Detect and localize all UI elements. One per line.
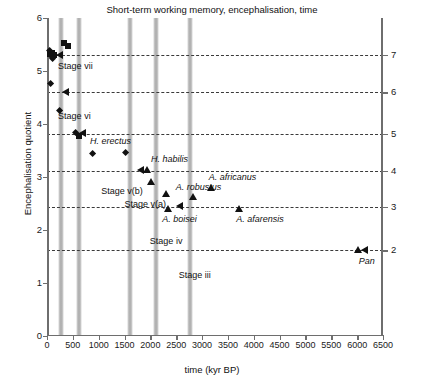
chart-figure: Short-term working memory, encephalisati… <box>0 0 424 383</box>
y-axis-left-tick <box>43 283 48 284</box>
chart-annotation: A. afarensis <box>236 215 284 224</box>
y-axis-right-tick-label: 2 <box>391 245 417 255</box>
x-axis-tick-label: 6500 <box>363 341 403 350</box>
data-point-triangle <box>143 166 151 173</box>
x-axis-tick <box>383 335 384 340</box>
x-axis-tick <box>99 335 100 340</box>
y-axis-left-tick-label: 0 <box>16 331 42 341</box>
data-point-triangle <box>162 190 170 197</box>
y-axis-left-tick <box>43 177 48 178</box>
y-axis-right-tick <box>383 207 388 208</box>
guide-arrow-left <box>176 202 183 210</box>
y-axis-left-tick <box>43 124 48 125</box>
x-axis-tick <box>331 335 332 340</box>
y-axis-left-tick <box>43 71 48 72</box>
data-point-triangle <box>235 205 243 212</box>
guide-arrow-left <box>62 88 69 96</box>
guide-line <box>47 250 383 251</box>
data-point-triangle <box>147 178 155 185</box>
chart-annotation: Pan <box>359 257 375 266</box>
x-axis-tick <box>125 335 126 340</box>
guide-arrow-left <box>137 166 144 174</box>
y-axis-left-tick <box>43 230 48 231</box>
y-axis-right-tick-label: 4 <box>391 166 417 176</box>
chart-annotation: Stage iv <box>150 237 183 246</box>
y-axis-left-tick-label: 1 <box>16 278 42 288</box>
x-axis-tick <box>73 335 74 340</box>
y-axis-right-tick <box>383 171 388 172</box>
y-axis-left-tick-label: 6 <box>16 13 42 23</box>
data-point-square <box>65 43 71 49</box>
stage-band <box>127 18 133 335</box>
chart-annotation: A. robustus <box>176 183 222 192</box>
y-axis-left-tick-label: 3 <box>16 172 42 182</box>
guide-line <box>47 207 383 208</box>
y-axis-left-line <box>47 18 49 336</box>
y-axis-right-tick-label: 6 <box>391 87 417 97</box>
y-axis-left-tick-label: 2 <box>16 225 42 235</box>
x-axis-tick <box>176 335 177 340</box>
chart-annotation: Stage vii <box>58 62 93 71</box>
guide-arrow-left <box>56 51 63 59</box>
x-axis-tick <box>280 335 281 340</box>
guide-line <box>47 92 383 93</box>
plot-area: 0123456 234567 0500100015002000250030003… <box>47 18 383 336</box>
x-axis-tick <box>305 335 306 340</box>
x-axis-title: time (kyr BP) <box>0 364 424 375</box>
y-axis-right-tick <box>383 250 388 251</box>
guide-line <box>47 134 383 135</box>
y-axis-right-line <box>381 18 383 336</box>
y-axis-left-tick-label: 4 <box>16 119 42 129</box>
chart-annotation: Stage v(a) <box>125 200 167 209</box>
x-axis-tick <box>357 335 358 340</box>
chart-annotation: H. erectus <box>90 137 131 146</box>
chart-annotation: H. habilis <box>151 155 188 164</box>
y-axis-right-tick <box>383 92 388 93</box>
y-axis-left-tick-label: 5 <box>16 66 42 76</box>
y-axis-left-title: Encephalisation quotient <box>22 44 33 284</box>
data-point-triangle <box>189 193 197 200</box>
data-point-diamond <box>89 149 96 156</box>
guide-arrow-left <box>361 246 368 254</box>
y-axis-right-tick <box>383 134 388 135</box>
chart-annotation: A. africanus <box>209 173 257 182</box>
chart-annotation: Stage iii <box>179 271 211 280</box>
x-axis-tick <box>228 335 229 340</box>
stage-band <box>187 18 193 335</box>
chart-annotation: Stage vi <box>58 112 91 121</box>
x-axis-tick <box>254 335 255 340</box>
y-axis-right-tick-label: 5 <box>391 129 417 139</box>
guide-arrow-left <box>79 129 86 137</box>
guide-line <box>47 55 383 56</box>
x-axis-tick <box>202 335 203 340</box>
y-axis-right-tick-label: 3 <box>391 202 417 212</box>
x-axis-tick <box>47 335 48 340</box>
y-axis-right-tick-label: 7 <box>391 50 417 60</box>
x-axis-tick <box>150 335 151 340</box>
y-axis-right-tick <box>383 55 388 56</box>
chart-annotation: A. boisei <box>162 215 197 224</box>
chart-title: Short-term working memory, encephalisati… <box>0 4 424 15</box>
chart-annotation: Stage v(b) <box>101 187 143 196</box>
stage-band <box>153 18 159 335</box>
y-axis-left-tick <box>43 18 48 19</box>
